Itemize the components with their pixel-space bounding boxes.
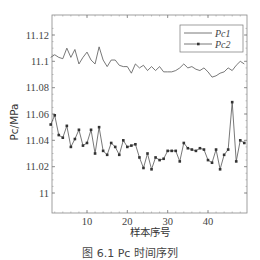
data-point-marker (57, 134, 60, 137)
data-point-marker (211, 161, 214, 164)
data-point-marker (138, 156, 141, 159)
data-point-marker (98, 126, 101, 129)
line-chart: 1111.0211.0411.0611.0811.111.12 10203040… (0, 0, 260, 240)
legend-marker (197, 43, 200, 46)
y-tick-label: 11.04 (26, 135, 50, 146)
data-point-marker (235, 160, 238, 163)
data-point-marker (223, 154, 226, 157)
data-point-marker (170, 150, 173, 153)
data-point-marker (110, 142, 113, 145)
data-point-marker (142, 167, 145, 170)
y-tick-label: 11.12 (26, 30, 49, 41)
data-point-marker (130, 144, 133, 147)
data-point-marker (118, 154, 121, 157)
data-point-marker (78, 129, 81, 132)
data-point-marker (62, 136, 65, 139)
y-tick-label: 11.1 (31, 56, 49, 67)
data-point-marker (227, 148, 230, 151)
data-point-marker (243, 142, 246, 145)
data-point-marker (166, 150, 169, 153)
data-point-marker (70, 146, 73, 149)
y-tick-label: 11 (39, 188, 49, 199)
data-point-marker (94, 152, 97, 155)
data-point-marker (53, 114, 56, 117)
data-point-marker (239, 139, 242, 142)
y-tick-label: 11.02 (26, 161, 49, 172)
x-axis-label: 样本序号 (130, 226, 170, 238)
data-point-marker (74, 138, 77, 141)
data-point-marker (154, 156, 157, 159)
data-point-marker (191, 148, 194, 151)
data-point-marker (102, 150, 105, 153)
data-point-marker (183, 142, 186, 145)
legend-label: Pc1 (214, 28, 231, 39)
legend-label: Pc2 (214, 39, 231, 50)
data-point-marker (49, 123, 52, 126)
y-tick-label: 11.08 (26, 82, 49, 93)
data-point-marker (134, 143, 137, 146)
y-axis-label: Pc/MPa (8, 104, 20, 141)
data-point-marker (207, 159, 210, 162)
data-point-marker (122, 139, 125, 142)
figure-caption: 图 6.1 Pc 时间序列 (0, 244, 260, 260)
data-point-marker (203, 148, 206, 151)
data-point-marker (199, 147, 202, 150)
series-layer (49, 47, 245, 171)
data-point-marker (114, 146, 117, 149)
data-point-marker (66, 125, 69, 128)
legend-box (180, 25, 243, 52)
data-point-marker (195, 150, 198, 153)
data-point-marker (158, 159, 161, 162)
data-point-marker (106, 154, 109, 157)
data-point-marker (90, 129, 93, 132)
series-pc2-line (51, 102, 245, 169)
data-point-marker (150, 168, 153, 171)
data-point-marker (219, 168, 222, 171)
data-point-marker (187, 147, 190, 150)
legend: Pc1Pc2 (180, 25, 243, 52)
data-point-marker (162, 157, 165, 160)
data-point-marker (146, 152, 149, 155)
data-point-marker (86, 142, 89, 145)
y-tick-label: 11.06 (26, 109, 49, 120)
data-point-marker (82, 144, 85, 147)
data-point-marker (231, 101, 234, 104)
y-axis: 1111.0211.0411.0611.0811.111.12 (26, 30, 247, 199)
x-tick-label: 10 (82, 216, 93, 227)
x-tick-label: 40 (203, 216, 214, 227)
data-point-marker (215, 148, 218, 151)
data-point-marker (174, 150, 177, 153)
data-point-marker (178, 160, 181, 163)
data-point-marker (126, 146, 129, 149)
